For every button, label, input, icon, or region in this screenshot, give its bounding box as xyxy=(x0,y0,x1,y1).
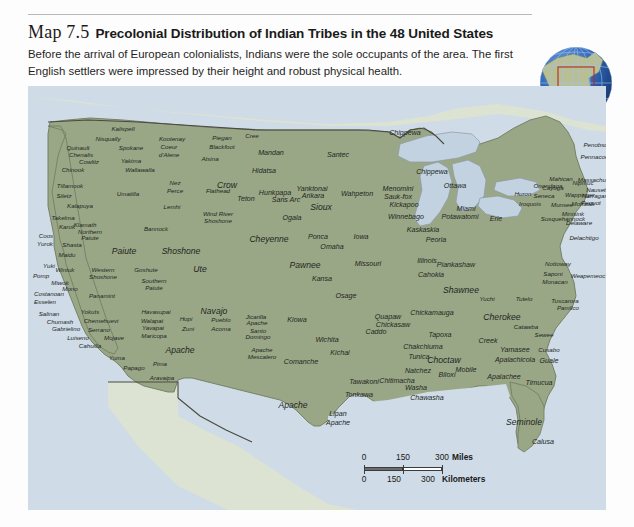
scale-km-tick-0: 0 xyxy=(362,474,367,484)
scale-bar: 0 150 300 Miles 0 150 300 Kilometers xyxy=(362,452,522,485)
scale-tick-end xyxy=(442,465,443,474)
scale-kilometers-labels: 0 150 300 Kilometers xyxy=(362,474,522,485)
scale-segment-filled xyxy=(364,467,403,471)
scale-tick-start xyxy=(364,465,365,474)
page-title: Map 7.5Precolonial Distribution of India… xyxy=(28,22,548,43)
scale-km-tick-300: 300 xyxy=(421,474,435,484)
scale-segment-empty xyxy=(403,467,442,471)
map-caption: Before the arrival of European coloniali… xyxy=(28,46,520,79)
map-svg xyxy=(28,86,606,510)
scale-tick-middle xyxy=(403,465,404,474)
scale-km-tick-150: 150 xyxy=(387,474,401,484)
map-container[interactable]: KalispellNisquallyKootenayPieganCreeQuin… xyxy=(28,86,606,510)
scale-miles-tick-0: 0 xyxy=(362,452,367,462)
scale-graphic xyxy=(362,464,480,473)
header-divider xyxy=(28,14,532,15)
map-title-text: Precolonial Distribution of Indian Tribe… xyxy=(95,26,493,41)
map-number: Map 7.5 xyxy=(28,22,89,42)
scale-miles-labels: 0 150 300 Miles xyxy=(362,452,522,463)
scale-miles-tick-150: 150 xyxy=(396,452,410,462)
scale-miles-tick-300: 300 xyxy=(435,452,449,462)
scale-miles-unit: Miles xyxy=(452,452,473,462)
scale-km-unit: Kilometers xyxy=(442,474,485,484)
